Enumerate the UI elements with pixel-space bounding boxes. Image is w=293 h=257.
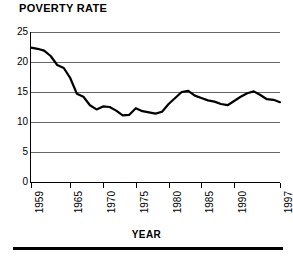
plot-area	[31, 32, 280, 182]
y-tick-label-15: 15	[2, 87, 28, 97]
x-tick-mark-1959	[31, 183, 32, 188]
x-tick-label-1965: 1965	[74, 191, 84, 213]
y-tick-label-5: 5	[2, 147, 28, 157]
poverty-rate-line-series	[31, 32, 280, 182]
x-tick-mark-1965	[70, 183, 71, 188]
x-tick-mark-1975	[136, 183, 137, 188]
y-tick-label-10: 10	[2, 117, 28, 127]
x-axis-line	[31, 182, 280, 183]
x-tick-mark-1970	[103, 183, 104, 188]
poverty-rate-line-path	[31, 48, 280, 116]
y-tick-label-20: 20	[2, 57, 28, 67]
x-tick-label-1997: 1997	[284, 191, 293, 213]
y-tick-label-0: 0	[2, 177, 28, 187]
x-tick-mark-1997	[280, 183, 281, 188]
x-tick-label-1985: 1985	[205, 191, 215, 213]
x-tick-label-1970: 1970	[107, 191, 117, 213]
x-tick-label-1980: 1980	[173, 191, 183, 213]
x-tick-mark-1990	[234, 183, 235, 188]
x-tick-mark-1980	[169, 183, 170, 188]
poverty-rate-chart-figure: POVERTY RATE 2520151050 1959196519701975…	[0, 0, 293, 257]
y-tick-label-25: 25	[2, 27, 28, 37]
x-tick-label-1990: 1990	[238, 191, 248, 213]
bottom-rule	[13, 247, 283, 250]
x-tick-label-1975: 1975	[140, 191, 150, 213]
x-tick-label-1959: 1959	[35, 191, 45, 213]
x-axis-title: YEAR	[0, 229, 293, 240]
x-tick-mark-1985	[201, 183, 202, 188]
y-axis-tick-labels: 2520151050	[0, 0, 28, 257]
chart-title: POVERTY RATE	[19, 2, 107, 15]
